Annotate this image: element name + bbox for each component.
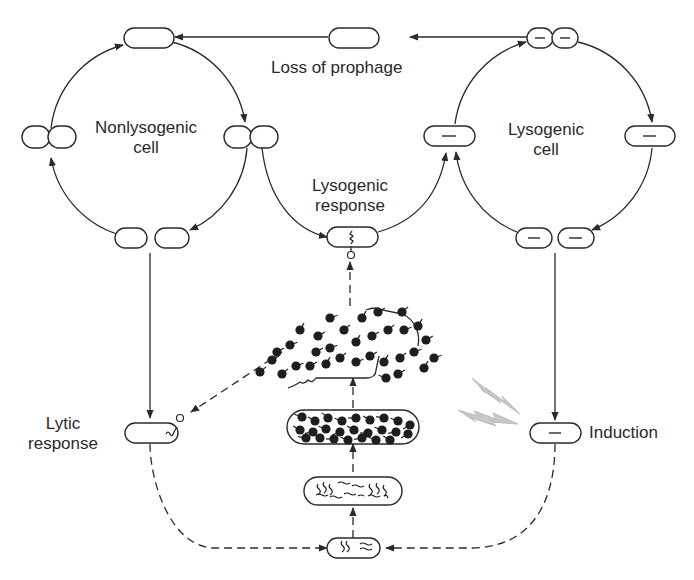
cell-induced-lysogen	[530, 423, 581, 443]
nonlysogenic-label-line1: Nonlysogenic	[86, 118, 206, 138]
phage-life-cycle-diagram	[0, 0, 694, 580]
lysogenic-label-line2: cell	[496, 140, 596, 160]
cell-nonlysogenic-dividing-right	[224, 126, 278, 148]
cell-phage-dna-replicating	[327, 538, 380, 558]
lysogenic-response-line2: response	[300, 196, 400, 216]
cell-lysogenic-left	[424, 126, 475, 146]
uv-lightning-icon	[458, 378, 520, 426]
induction-label: Induction	[589, 423, 658, 443]
cell-lysogenic-right	[625, 126, 675, 146]
lysed-cell-burst	[255, 307, 441, 388]
lysogenic-label-line1: Lysogenic	[496, 120, 596, 140]
induction-to-replication-dashed-arrow	[386, 444, 555, 548]
cell-nonlysogenic-top	[124, 28, 174, 48]
cell-cured	[329, 28, 379, 48]
lysogenic-response-line1: Lysogenic	[300, 176, 400, 196]
cell-full-of-phages	[287, 410, 419, 445]
cell-lysogenic-response	[327, 227, 378, 259]
cell-nonlysogenic-daughters	[115, 228, 189, 248]
cell-nonlysogenic-dividing-left	[22, 126, 76, 148]
lysogenic-response-label: Lysogenic response	[300, 176, 400, 216]
cell-lytic-response	[125, 415, 184, 444]
cell-lysogenic-dividing-top	[527, 28, 578, 48]
loss-of-prophage-label: Loss of prophage	[271, 58, 402, 78]
nonlysogenic-cell-label: Nonlysogenic cell	[86, 118, 206, 158]
lytic-response-label: Lytic response	[18, 414, 108, 454]
lysogenic-cell-label: Lysogenic cell	[496, 120, 596, 160]
lytic-response-line1: Lytic	[18, 414, 108, 434]
lytic-response-line2: response	[18, 434, 108, 454]
lytic-to-replication-dashed-arrow	[150, 444, 327, 548]
nonlysogenic-label-line2: cell	[86, 138, 206, 158]
cell-lysogenic-daughters	[516, 228, 594, 248]
cell-phage-dna-copies	[304, 477, 402, 505]
